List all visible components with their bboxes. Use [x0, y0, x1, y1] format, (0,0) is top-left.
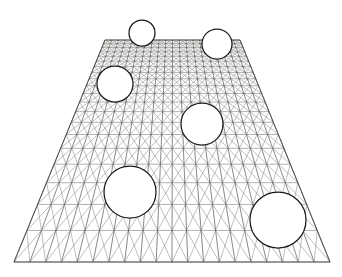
hole-6	[250, 192, 306, 248]
hole-2	[202, 29, 232, 59]
figure-root	[0, 0, 342, 277]
hole-4	[181, 103, 223, 145]
hole-5	[104, 166, 156, 218]
hole-1	[129, 20, 155, 46]
mesh-diagram	[0, 0, 342, 277]
hole-3	[97, 66, 133, 102]
